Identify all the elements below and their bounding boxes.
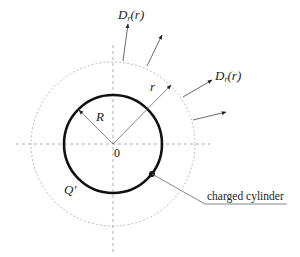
charge-label: Q': [64, 182, 76, 197]
callout-label: charged cylinder: [207, 190, 284, 203]
top-field-label: Dr(r): [117, 7, 144, 23]
field-arrow-3: [183, 80, 212, 97]
right-field-label: Dr(r): [214, 68, 241, 84]
field-arrow-1: [123, 24, 128, 61]
inner-radius-label: R: [95, 109, 104, 124]
charged-cylinder-diagram: Dr(r) Dr(r) r R 0 Q' charged cylinder: [0, 0, 300, 257]
origin-label: 0: [114, 146, 120, 160]
field-arrow-2: [147, 35, 162, 66]
field-arrow-4: [193, 112, 226, 120]
outer-radius-label: r: [150, 79, 156, 94]
